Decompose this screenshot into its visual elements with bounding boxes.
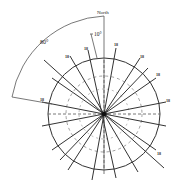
north-label: North: [97, 10, 109, 15]
center-point: [102, 112, 106, 116]
svg-text:18: 18: [157, 151, 161, 156]
angle-arc-80-ray: [12, 97, 52, 104]
svg-text:18: 18: [166, 98, 170, 103]
svg-text:18: 18: [65, 54, 69, 59]
svg-text:18: 18: [140, 54, 144, 59]
angle-10-ray: [91, 34, 97, 58]
rose-diagram: North 80° 10° 18 18 18 18 18 18 18 18: [0, 0, 181, 188]
svg-text:18: 18: [114, 42, 118, 47]
angle-arc-80: [12, 16, 104, 97]
line-labels: 18 18 18 18 18 18 18 18: [40, 42, 170, 156]
svg-text:18: 18: [40, 97, 44, 102]
svg-text:18: 18: [84, 46, 88, 51]
angle-label-80: 80°: [40, 39, 49, 45]
svg-text:18: 18: [156, 72, 160, 77]
angle-label-10: 10°: [94, 31, 102, 37]
